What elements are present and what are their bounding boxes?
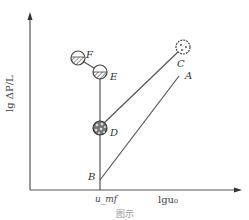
figure-caption: 图示 bbox=[0, 207, 249, 220]
x-tick-umf: u_mf bbox=[95, 194, 117, 204]
point-b-label: B bbox=[88, 172, 95, 182]
line-e-f bbox=[84, 62, 94, 68]
point-e-marker bbox=[93, 65, 107, 80]
point-c-label: C bbox=[177, 59, 185, 69]
point-d-marker bbox=[93, 121, 107, 135]
point-a-label: A bbox=[185, 71, 192, 81]
point-e-label: E bbox=[110, 72, 117, 82]
line-d-c bbox=[104, 51, 179, 123]
y-axis-label: lg ΔP/L bbox=[4, 75, 15, 112]
point-d-label: D bbox=[110, 128, 118, 138]
point-f-label: F bbox=[86, 50, 93, 60]
x-axis-label: lgu₀ bbox=[158, 194, 178, 205]
point-f-marker bbox=[71, 51, 85, 66]
x-axis bbox=[30, 188, 242, 193]
y-axis bbox=[28, 12, 33, 190]
diagram-canvas bbox=[0, 0, 249, 220]
point-c-marker bbox=[176, 40, 190, 54]
